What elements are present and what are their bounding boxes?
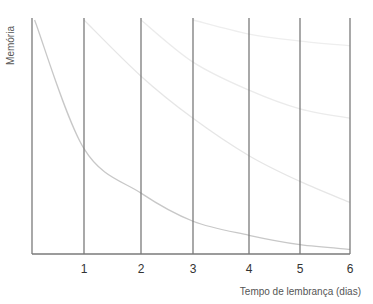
x-tick: 3 xyxy=(190,262,197,276)
forgetting-curve-4 xyxy=(193,20,350,46)
x-tick: 2 xyxy=(138,262,145,276)
x-tick: 6 xyxy=(347,262,354,276)
x-tick: 4 xyxy=(246,262,253,276)
forgetting-curve-chart xyxy=(0,0,373,304)
forgetting-curve-3 xyxy=(141,20,350,118)
y-axis-label-box: Memória xyxy=(2,18,16,78)
y-axis-label: Memória xyxy=(5,16,16,76)
forgetting-curve-1 xyxy=(35,20,350,249)
x-axis-label: Tempo de lembrança (dias) xyxy=(240,286,361,297)
x-tick: 5 xyxy=(297,262,304,276)
x-tick: 1 xyxy=(81,262,88,276)
curves xyxy=(35,20,350,249)
